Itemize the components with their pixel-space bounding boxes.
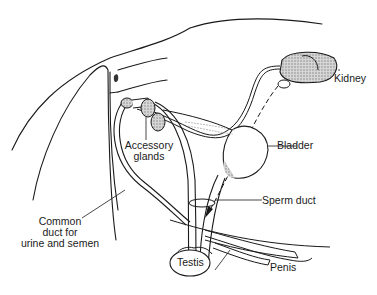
gland-3 bbox=[151, 113, 165, 131]
label-penis: Penis bbox=[270, 262, 296, 273]
label-accessory-glands: Accessory glands bbox=[120, 140, 178, 162]
body-line-top bbox=[118, 58, 167, 70]
sperm-duct-ring bbox=[189, 199, 215, 207]
label-testis: Testis bbox=[177, 257, 204, 268]
label-accessory-line2: glands bbox=[120, 151, 178, 162]
gland-2 bbox=[141, 99, 155, 117]
label-sperm-duct: Sperm duct bbox=[262, 195, 316, 206]
label-common-line3: urine and semen bbox=[18, 238, 102, 249]
urinogenital-diagram bbox=[0, 0, 377, 295]
label-kidney: Kidney bbox=[334, 73, 366, 84]
kidney-shape bbox=[280, 52, 337, 82]
adrenal bbox=[278, 80, 290, 88]
gland-1 bbox=[121, 98, 133, 108]
label-bladder: Bladder bbox=[277, 140, 313, 151]
label-common-duct: Common duct for urine and semen bbox=[18, 216, 102, 249]
body-line-mid bbox=[118, 80, 167, 92]
leader-common-duct bbox=[82, 190, 125, 218]
leader-penis bbox=[215, 250, 230, 270]
body-outline bbox=[12, 19, 322, 150]
leg-outline-1 bbox=[33, 66, 116, 240]
anus-mark bbox=[114, 74, 118, 82]
